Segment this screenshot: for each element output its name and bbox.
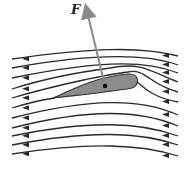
flow-arrow-left-icon — [22, 86, 29, 91]
flow-arrow-left-icon — [22, 95, 29, 100]
flow-arrow-left-icon — [162, 133, 169, 138]
streamlines-group — [12, 50, 178, 156]
flow-arrow-left-icon — [162, 99, 169, 104]
flow-arrow-left-icon — [162, 89, 169, 94]
flow-arrow-left-icon — [162, 153, 169, 158]
flow-arrow-left-icon — [162, 142, 169, 147]
force-arrow-icon — [86, 7, 105, 86]
flow-arrow-left-icon — [162, 123, 169, 128]
airfoil-streamline-diagram: F — [0, 0, 189, 174]
diagram-canvas — [0, 0, 189, 174]
flow-arrow-left-icon — [162, 70, 169, 75]
streamline — [12, 146, 178, 156]
flow-arrow-left-icon — [162, 62, 169, 67]
force-label: F — [71, 2, 80, 17]
flow-arrow-left-icon — [22, 105, 29, 110]
flow-arrow-left-icon — [162, 79, 169, 84]
streamline — [12, 134, 178, 145]
streamline — [12, 114, 178, 129]
flow-arrow-left-icon — [22, 125, 29, 130]
center-of-pressure-dot — [103, 84, 107, 88]
flow-arrow-left-icon — [22, 115, 29, 120]
flow-arrow-left-icon — [162, 112, 169, 117]
streamline — [12, 103, 178, 118]
